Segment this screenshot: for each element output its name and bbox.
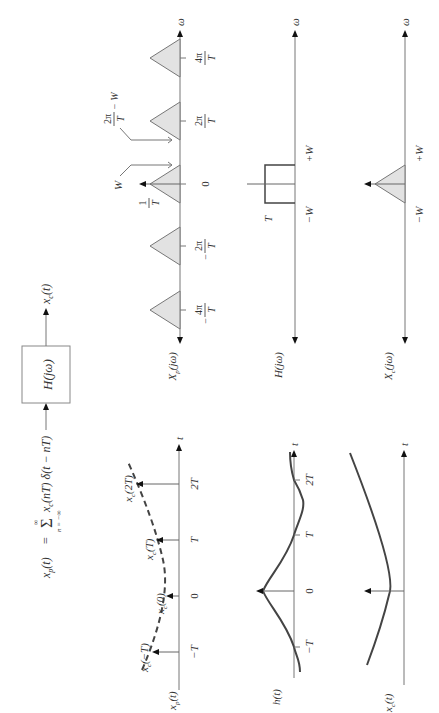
xp-sample-arrowhead: [136, 481, 143, 487]
sigma-lower: n = −∞: [55, 511, 63, 532]
xp-time-axis-label: t: [173, 436, 185, 440]
h-center-arrowhead: [256, 588, 263, 594]
xc-edge-low: −W: [413, 206, 425, 223]
xp-time-tick: −T: [188, 644, 200, 658]
output-label: xc(t): [39, 284, 55, 305]
h-cutoff-high: +W: [303, 145, 315, 162]
xp-annotation-w: W: [112, 180, 124, 190]
xc-center-arrowhead: [364, 588, 371, 594]
xc-center-arrowhead: [364, 181, 371, 187]
h-axis-arrowhead-top: [292, 30, 298, 37]
xp-time-tick: 2T: [188, 477, 200, 490]
h-time-arrowhead: [291, 450, 297, 457]
xp-time-label: xp(t): [166, 691, 181, 711]
svg-text:4π: 4π: [193, 53, 204, 63]
xc-axis-arrowhead-bottom: [402, 337, 408, 344]
xp-sample-label: xc(T): [143, 538, 158, 561]
svg-text:2π: 2π: [193, 241, 204, 251]
h-gain-label: T: [262, 215, 274, 222]
xp-time-tick: 0: [188, 593, 200, 599]
xp-axis-arrowhead-bottom: [177, 337, 183, 344]
svg-text:T: T: [206, 242, 217, 249]
equation-equals: =: [39, 537, 53, 544]
h-sinc-curve: [263, 452, 303, 672]
input-arrowhead: [43, 403, 49, 410]
xp-tick-label-2pi: 2π T: [193, 114, 217, 128]
filter-box-label: H(jω): [40, 359, 55, 391]
sigma-upper: ∞: [32, 520, 40, 525]
xp-annotation-alias: 2π T − W: [102, 91, 126, 126]
h-axis-arrowhead-bottom: [292, 337, 298, 344]
xp-amplitude-label: 1 T: [137, 198, 161, 208]
xc-axis-label: ω: [399, 18, 411, 26]
xc-continuous-curve: [350, 453, 390, 665]
svg-text:T: T: [150, 199, 161, 206]
xp-replica-2pi: [150, 102, 180, 140]
xp-tick-label-neg2pi: − 2π T: [193, 239, 217, 260]
input-equation: xp(t) = Σ ∞ n = −∞ xc(nT) δ(t − nT): [32, 436, 63, 579]
svg-text:−: −: [200, 318, 211, 324]
h-axis-label: ω: [289, 18, 301, 26]
xp-tick-label-0: 0: [199, 181, 211, 187]
xp-axis-label: ω: [174, 18, 186, 26]
xc-time-label: xc(t): [382, 693, 397, 713]
equation-lhs: xp(t): [39, 557, 55, 579]
h-time-label: h(t): [270, 689, 283, 705]
svg-text:T: T: [206, 117, 217, 124]
xp-center-arrowhead: [139, 181, 146, 187]
equation-term: xc(nT) δ(t − nT): [39, 436, 55, 513]
filter-h-plot: ω T −W +W H(jω): [247, 18, 315, 379]
h-time-tick: 2T: [303, 473, 315, 486]
output-arrowhead: [43, 308, 49, 315]
svg-text:T: T: [206, 54, 217, 61]
xp-sample-arrowhead: [166, 593, 173, 599]
xp-replica-neg4pi: [150, 291, 180, 329]
xc-time-arrowhead: [401, 450, 407, 457]
xp-axis-arrowhead-top: [177, 30, 183, 37]
xc-edge-high: +W: [413, 145, 425, 162]
xc-spectrum-label: Xc(jω): [382, 352, 397, 381]
h-time-tick: −T: [303, 639, 315, 653]
svg-text:− W: − W: [109, 91, 120, 110]
xc-axis-arrowhead-top: [402, 30, 408, 37]
xp-tick-label-neg4pi: − 4π T: [193, 303, 217, 324]
h-spectrum-label: H(jω): [272, 352, 285, 379]
xp-sample-arrowhead: [152, 649, 159, 655]
svg-text:−: −: [200, 254, 211, 260]
h-time-tick: 0: [303, 588, 315, 594]
xp-annotation-w-leader: [120, 165, 172, 176]
xp-sample-label: xc(2T): [122, 475, 137, 503]
time-xp-plot: t xc(−T) xc(0) xc(T) xc(2T) −T 0 T 2T xp…: [122, 436, 200, 711]
sampling-reconstruction-diagram: xp(t) = Σ ∞ n = −∞ xc(nT) δ(t − nT) H(jω…: [0, 0, 439, 713]
time-h-plot: t −T 0 T 2T h(t): [256, 442, 315, 705]
h-time-axis-label: t: [288, 442, 300, 446]
svg-text:2π: 2π: [102, 114, 113, 124]
xp-replica-neg2pi: [150, 227, 180, 265]
xp-time-arrowhead: [176, 444, 182, 451]
spectrum-xp-plot: ω 4π T 2π T 0 − 2π T: [102, 18, 217, 381]
svg-text:T: T: [206, 306, 217, 313]
system-block: xp(t) = Σ ∞ n = −∞ xc(nT) δ(t − nT) H(jω…: [22, 284, 70, 579]
h-time-tick: T: [303, 531, 315, 538]
svg-text:T: T: [115, 115, 126, 122]
xp-tick-label-4pi: 4π T: [193, 51, 217, 65]
svg-text:4π: 4π: [193, 305, 204, 315]
svg-text:1: 1: [137, 201, 148, 206]
xp-spectrum-label: Xp(jω): [166, 352, 181, 382]
spectrum-xc-plot: ω −W +W Xc(jω): [364, 18, 425, 381]
xp-time-tick: T: [188, 536, 200, 543]
xc-time-axis-label: t: [398, 442, 410, 446]
svg-text:2π: 2π: [193, 116, 204, 126]
h-cutoff-low: −W: [303, 206, 315, 223]
time-xc-plot: t xc(t): [350, 442, 410, 713]
xp-sample-arrowhead: [156, 537, 163, 543]
xp-replica-4pi: [150, 39, 180, 77]
